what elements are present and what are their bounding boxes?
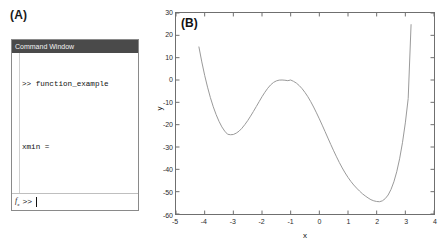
y-tick-label: 20	[165, 31, 173, 38]
x-tick-label: 0	[309, 218, 329, 225]
x-axis-label: x	[175, 231, 435, 240]
x-tick-label: 3	[396, 218, 416, 225]
y-axis-label: y	[155, 107, 164, 111]
y-axis-tick-labels: 3020100-10-20-30-40-50-60	[160, 12, 173, 215]
text-cursor[interactable]	[36, 197, 37, 207]
output-line-blank-2	[22, 173, 136, 184]
output-line-blank-1	[22, 110, 136, 121]
fx-icon[interactable]: fx	[15, 197, 19, 207]
x-tick-label: -5	[165, 218, 185, 225]
output-line-xmin-name: xmin =	[22, 142, 136, 153]
x-tick-label: 1	[338, 218, 358, 225]
x-tick-label: -2	[252, 218, 272, 225]
function-curve	[199, 25, 411, 202]
command-window-titlebar[interactable]: Command Window	[12, 40, 138, 53]
command-window-prompt-bar[interactable]: fx >>	[12, 193, 138, 210]
x-tick-label: -1	[281, 218, 301, 225]
panel-a: (A) Command Window >> function_example x…	[0, 0, 160, 245]
panel-a-label: (A)	[10, 8, 27, 22]
x-tick-label: 2	[367, 218, 387, 225]
plot-area: (B)	[175, 12, 435, 215]
x-tick-label: -3	[223, 218, 243, 225]
x-tick-label: 4	[425, 218, 442, 225]
y-tick-label: -40	[163, 166, 173, 173]
command-window-body[interactable]: >> function_example xmin = 1.8519 ymin =…	[12, 53, 138, 193]
command-window-output: >> function_example xmin = 1.8519 ymin =…	[12, 53, 138, 193]
command-window[interactable]: Command Window >> function_example xmin …	[11, 39, 139, 211]
x-tick-label: -4	[194, 218, 214, 225]
axis-tick-marks	[176, 13, 434, 214]
y-tick-label: 30	[165, 9, 173, 16]
prompt-symbol: >>	[22, 198, 32, 206]
output-line-command: >> function_example	[22, 79, 136, 90]
plot-svg	[176, 13, 434, 214]
y-tick-label: -30	[163, 144, 173, 151]
y-tick-label: -50	[163, 189, 173, 196]
y-tick-label: -10	[163, 99, 173, 106]
command-window-title: Command Window	[15, 43, 74, 50]
y-tick-label: 10	[165, 54, 173, 61]
y-tick-label: 0	[169, 76, 173, 83]
panel-b: 3020100-10-20-30-40-50-60 -5-4-3-2-10123…	[160, 0, 442, 245]
y-tick-label: -20	[163, 121, 173, 128]
x-axis-tick-labels: -5-4-3-2-101234	[175, 218, 435, 230]
panel-b-label: (B)	[181, 16, 198, 30]
